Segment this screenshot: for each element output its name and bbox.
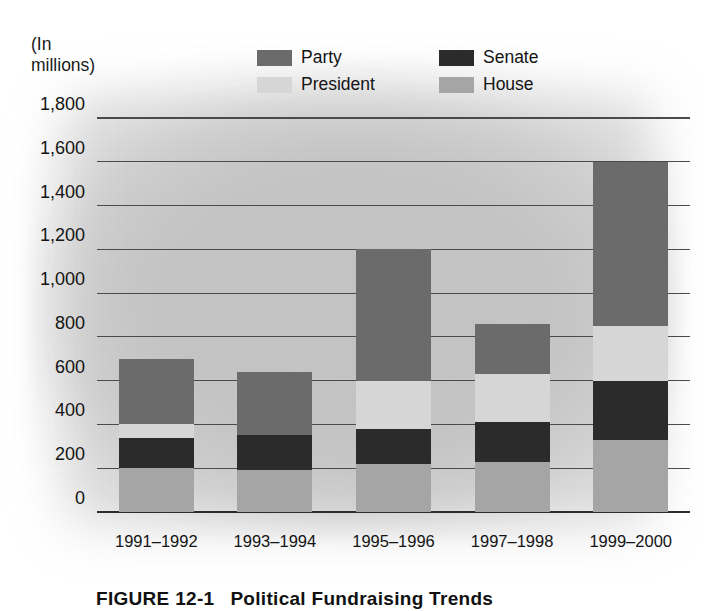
bar-segment-president-3 [475,374,550,422]
bar-segment-house-0 [119,468,194,512]
units-note-line1: (In [31,34,151,55]
legend-item-senate: Senate [439,47,621,68]
bar-segment-party-2 [356,249,431,380]
bar-segment-senate-2 [356,429,431,464]
legend-swatch-senate [439,50,474,66]
figure-title: Political Fundraising Trends [230,588,493,609]
bar-segment-house-4 [593,440,668,512]
figure-number: FIGURE 12-1 [96,588,214,609]
chart-legend: Party Senate President House [257,44,657,98]
bar-segment-senate-3 [475,422,550,461]
legend-label-house: House [483,74,534,95]
y-tick-600: 600 [55,357,85,377]
x-tick-3: 1997–1998 [471,532,554,550]
bar-segment-senate-1 [237,435,312,470]
y-axis-tick-labels: 02004006008001,0001,2001,4001,6001,800 [40,94,85,508]
x-tick-0: 1991–1992 [115,532,198,550]
y-tick-1,400: 1,400 [40,182,85,202]
legend-swatch-president [257,77,292,93]
legend-label-party: Party [301,47,342,68]
legend-swatch-party [257,50,292,66]
y-tick-1,000: 1,000 [40,269,85,289]
y-tick-1,200: 1,200 [40,225,85,245]
x-tick-4: 1999–2000 [589,532,672,550]
bar-segment-president-4 [593,326,668,381]
bar-segment-house-3 [475,462,550,512]
legend-item-president: President [257,74,439,95]
bar-segment-party-4 [593,162,668,326]
bar-segment-party-1 [237,372,312,435]
y-tick-800: 800 [55,313,85,333]
figure-caption: FIGURE 12-1Political Fundraising Trends [96,588,696,610]
figure-page: (In millions) Party Senate President Hou… [0,0,704,611]
legend-item-house: House [439,74,621,95]
bar-segment-party-3 [475,324,550,374]
bar-segment-house-2 [356,464,431,512]
y-tick-400: 400 [55,400,85,420]
legend-label-senate: Senate [483,47,538,68]
bar-segment-party-0 [119,359,194,425]
legend-swatch-house [439,77,474,93]
units-note-line2: millions) [31,55,151,76]
bar-segment-president-0 [119,424,194,437]
x-tick-1: 1993–1994 [234,532,317,550]
units-note: (In millions) [31,34,151,76]
x-tick-2: 1995–1996 [352,532,435,550]
y-tick-200: 200 [55,444,85,464]
bar-segment-house-1 [237,470,312,512]
y-tick-1,600: 1,600 [40,138,85,158]
x-axis-tick-labels: 1991–19921993–19941995–19961997–19981999… [115,532,672,550]
legend-label-president: President [301,74,375,95]
legend-item-party: Party [257,47,439,68]
bar-segment-senate-0 [119,438,194,469]
y-tick-0: 0 [75,488,85,508]
y-tick-1,800: 1,800 [40,94,85,114]
bar-segment-president-2 [356,381,431,429]
bar-segment-senate-4 [593,381,668,440]
